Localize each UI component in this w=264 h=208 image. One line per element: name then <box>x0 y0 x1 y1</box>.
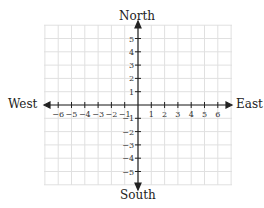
svg-text:−4: −4 <box>79 110 91 119</box>
svg-text:−2: −2 <box>106 110 118 119</box>
svg-text:−5: −5 <box>122 168 134 177</box>
south-label: South <box>120 188 156 202</box>
svg-text:3: 3 <box>129 61 134 70</box>
svg-text:−5: −5 <box>66 110 78 119</box>
svg-text:3: 3 <box>175 110 180 119</box>
east-label: East <box>236 97 263 111</box>
axes <box>44 21 232 190</box>
svg-text:1: 1 <box>129 88 134 97</box>
north-label: North <box>119 9 155 23</box>
svg-text:−4: −4 <box>122 154 134 163</box>
svg-text:2: 2 <box>129 74 134 83</box>
svg-text:−2: −2 <box>122 128 134 137</box>
svg-text:1: 1 <box>149 110 154 119</box>
svg-text:−3: −3 <box>122 141 134 150</box>
svg-text:5: 5 <box>129 35 134 44</box>
coordinate-plane: −6−5−4−3−2−112345654321−1−2−3−4−5 <box>0 0 264 208</box>
svg-text:5: 5 <box>202 110 207 119</box>
svg-text:−1: −1 <box>122 114 134 123</box>
svg-text:4: 4 <box>129 48 134 57</box>
west-label: West <box>8 97 37 111</box>
svg-text:−3: −3 <box>92 110 104 119</box>
svg-text:6: 6 <box>215 110 220 119</box>
svg-text:−6: −6 <box>52 110 64 119</box>
svg-text:2: 2 <box>162 110 167 119</box>
svg-text:4: 4 <box>189 110 194 119</box>
